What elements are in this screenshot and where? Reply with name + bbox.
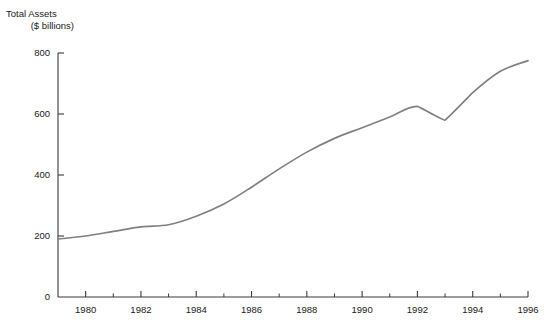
- y-axis-tick-label: 0: [0, 291, 50, 302]
- x-axis-tick-label: 1994: [448, 304, 498, 315]
- chart-container: Total Assets ($ billions) 02004006008001…: [0, 0, 551, 334]
- x-axis-tick-label: 1988: [282, 304, 332, 315]
- x-axis-tick-label: 1984: [171, 304, 221, 315]
- line-chart-plot: [0, 0, 551, 334]
- y-axis-tick-label: 800: [0, 47, 50, 58]
- x-axis-tick-label: 1980: [61, 304, 111, 315]
- x-axis-tick-label: 1992: [392, 304, 442, 315]
- x-axis-tick-label: 1996: [503, 304, 551, 315]
- y-axis-tick-label: 600: [0, 108, 50, 119]
- x-axis-tick-label: 1990: [337, 304, 387, 315]
- x-axis-tick-label: 1982: [116, 304, 166, 315]
- y-axis-tick-label: 200: [0, 230, 50, 241]
- x-axis-tick-label: 1986: [227, 304, 277, 315]
- data-series-line: [58, 61, 528, 239]
- y-axis-tick-label: 400: [0, 169, 50, 180]
